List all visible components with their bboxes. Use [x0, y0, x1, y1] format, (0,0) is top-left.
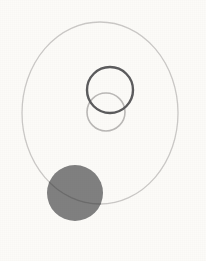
figure-container [0, 0, 206, 261]
filled-gray-disc [47, 165, 103, 221]
circles-diagram-canvas [0, 0, 206, 261]
